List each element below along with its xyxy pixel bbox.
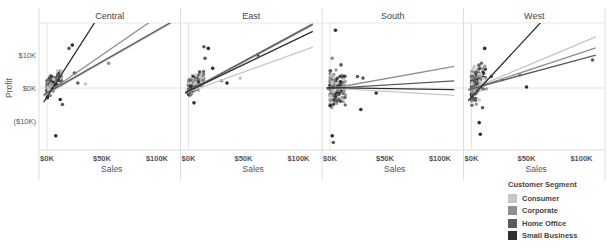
trend-line-corporate: [327, 66, 455, 89]
data-point: [58, 98, 62, 102]
data-point: [52, 78, 55, 81]
data-point: [474, 71, 477, 74]
data-point: [342, 78, 345, 81]
trend-line-home-office: [468, 55, 596, 89]
data-point: [478, 98, 481, 101]
data-point: [482, 87, 485, 90]
data-point: [479, 132, 483, 136]
x-tick-label: $100K: [429, 154, 452, 163]
data-point: [330, 57, 334, 61]
data-point: [332, 90, 335, 93]
data-point: [189, 84, 192, 87]
data-point: [334, 68, 337, 71]
legend-title: Customer Segment: [508, 180, 577, 189]
data-point: [107, 61, 111, 65]
data-point: [194, 73, 197, 76]
data-point: [194, 81, 197, 84]
x-tick-label: $100K: [287, 154, 310, 163]
data-point: [335, 99, 338, 102]
data-point: [342, 90, 345, 93]
data-point: [207, 47, 211, 51]
data-point: [202, 73, 205, 76]
data-point: [339, 63, 343, 67]
panel-header: Central: [95, 11, 124, 21]
data-point: [331, 82, 334, 85]
data-point: [84, 82, 88, 86]
data-point: [202, 70, 205, 73]
data-point: [329, 72, 332, 75]
data-point: [192, 101, 196, 105]
panel-header: West: [524, 11, 545, 21]
data-point: [344, 103, 347, 106]
data-point: [61, 103, 65, 107]
legend-item-corporate[interactable]: Corporate: [508, 205, 577, 218]
data-point: [525, 85, 529, 89]
legend-item-home-office[interactable]: Home Office: [508, 217, 577, 230]
data-point: [356, 75, 360, 79]
data-point: [483, 47, 487, 51]
data-point: [342, 100, 345, 103]
data-point: [474, 97, 477, 100]
panel-east: East$0K$50K$100KSales: [181, 8, 323, 180]
data-point: [334, 28, 338, 32]
data-point: [475, 82, 478, 85]
data-point: [337, 93, 340, 96]
data-point: [71, 43, 75, 47]
data-point: [338, 75, 341, 78]
data-point: [50, 82, 53, 85]
data-point: [339, 80, 342, 83]
data-point: [479, 75, 482, 78]
data-point: [332, 76, 335, 79]
data-point: [481, 67, 484, 70]
legend-item-consumer[interactable]: Consumer: [508, 192, 577, 205]
panel-header: East: [242, 11, 261, 21]
data-point: [484, 68, 487, 71]
panel-south: South$0K$50K$100KSales: [322, 8, 464, 180]
data-point: [361, 76, 365, 80]
data-point: [470, 76, 473, 79]
data-point: [343, 96, 346, 99]
data-point: [470, 90, 473, 93]
y-tick-label: $0K: [23, 84, 36, 93]
data-point: [203, 57, 207, 61]
data-point: [56, 72, 59, 75]
data-point: [481, 106, 485, 110]
data-point: [478, 79, 481, 82]
x-tick-label: $50K: [93, 154, 112, 163]
data-point: [470, 72, 473, 75]
y-tick-label: ($10K): [13, 117, 36, 126]
data-point: [342, 74, 345, 77]
x-tick-label: $100K: [146, 154, 169, 163]
data-point: [328, 69, 331, 72]
data-point: [475, 102, 478, 105]
data-point: [332, 141, 336, 145]
legend-item-small-business[interactable]: Small Business: [508, 230, 577, 243]
data-point: [374, 91, 378, 95]
data-point: [197, 80, 200, 83]
data-point: [225, 81, 229, 85]
data-point: [472, 67, 475, 70]
data-point: [192, 75, 195, 78]
x-tick-label: $50K: [235, 154, 254, 163]
data-point: [334, 95, 337, 98]
trend-line-consumer: [44, 23, 172, 96]
data-point: [330, 134, 334, 138]
x-axis-title: Sales: [384, 164, 405, 174]
legend-label: Corporate: [522, 206, 558, 215]
legend-label: Consumer: [522, 194, 559, 203]
data-point: [329, 104, 332, 107]
data-point: [54, 134, 58, 138]
data-point: [202, 45, 206, 49]
legend: Customer Segment Consumer Corporate Home…: [508, 180, 577, 242]
data-point: [359, 108, 363, 112]
x-tick-label: $100K: [570, 154, 593, 163]
data-point: [329, 96, 332, 99]
data-point: [477, 72, 480, 75]
legend-label: Home Office: [522, 219, 566, 228]
data-point: [238, 76, 242, 80]
swatch-home-office: [508, 219, 517, 228]
trend-line-small-business: [185, 31, 313, 92]
panel-west: West$0K$50K$100KSales: [464, 0, 606, 180]
data-point: [472, 79, 475, 82]
data-point: [481, 70, 484, 73]
